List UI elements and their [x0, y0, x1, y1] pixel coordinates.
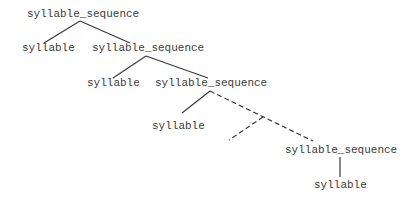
edge-level1-to-syllable [113, 56, 146, 78]
edge-level1-to-syllable-sequence [146, 56, 208, 78]
node-syllable-sequence-1: syllable_sequence [92, 42, 204, 54]
node-syllable-sequence-2: syllable_sequence [155, 77, 267, 89]
node-syllable-sequence-last: syllable_sequence [285, 144, 397, 156]
node-syllable-1: syllable [22, 42, 75, 54]
edge-elided-branch [229, 117, 263, 140]
edge-level2-to-elided-sequence [210, 91, 313, 141]
node-syllable-2: syllable [87, 77, 140, 89]
tree-edges [0, 0, 412, 199]
edge-root-to-syllable [44, 21, 80, 43]
node-syllable-last: syllable [314, 179, 367, 191]
node-root-syllable-sequence: syllable_sequence [27, 8, 139, 20]
node-syllable-3: syllable [152, 120, 205, 132]
parse-tree-diagram: syllable_sequence syllable syllable_sequ… [0, 0, 412, 199]
edge-root-to-syllable-sequence [80, 21, 130, 43]
edge-level2-to-syllable [182, 91, 210, 113]
